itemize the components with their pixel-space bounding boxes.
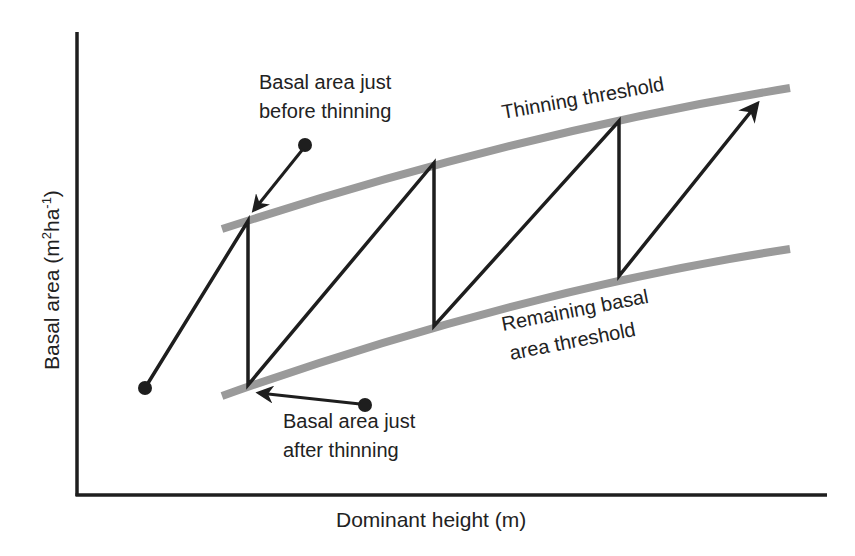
thinning-diagram: Basal area just before thinning Basal ar… (0, 0, 855, 556)
y-axis-label: Basal area (m2ha-1) (39, 190, 63, 370)
before-thinning-dot (298, 138, 312, 152)
after-thinning-arrow (259, 393, 360, 404)
before-thinning-label-line1: Basal area just (259, 71, 392, 93)
after-thinning-label-line2: after thinning (283, 439, 399, 461)
basal-area-trajectory (145, 104, 757, 388)
before-thinning-label-line2: before thinning (259, 100, 391, 122)
after-thinning-label-line1: Basal area just (283, 410, 416, 432)
start-point-dot (138, 381, 152, 395)
x-axis-label: Dominant height (m) (336, 508, 526, 531)
before-thinning-arrow (254, 149, 303, 210)
